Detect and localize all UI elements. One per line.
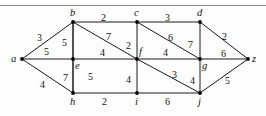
- edge-weight-g-z: 6: [221, 49, 226, 59]
- edge-weight-b-f: 7: [106, 32, 111, 42]
- edge-weight-d-g: 7: [188, 40, 193, 50]
- graph-vertex-f: [135, 57, 139, 61]
- edge-weight-a-e: 5: [44, 47, 49, 57]
- edge-weight-c-d: 3: [165, 13, 170, 23]
- edge-weight-b-h: 5: [88, 72, 93, 82]
- graph-vertex-j: [198, 91, 202, 95]
- vertex-label-d: d: [197, 8, 202, 19]
- vertex-label-e: e: [75, 61, 80, 72]
- edge-weight-j-z: 5: [225, 76, 230, 86]
- vertex-label-b: b: [70, 8, 75, 19]
- vertex-label-f: f: [139, 47, 142, 58]
- vertex-label-a: a: [11, 54, 16, 65]
- graph-figure: abcdefghijz3542575326724744346265: [0, 0, 266, 116]
- edge-weight-f-i: 4: [126, 75, 131, 85]
- vertex-label-h: h: [70, 97, 75, 108]
- vertex-label-i: i: [135, 97, 138, 108]
- vertex-label-c: c: [134, 8, 139, 19]
- edge-weight-d-z: 2: [222, 32, 227, 42]
- edge-weight-a-h: 4: [40, 80, 45, 90]
- vertex-label-j: j: [198, 97, 201, 108]
- edge-weight-a-b: 3: [37, 33, 42, 43]
- graph-canvas: [0, 0, 266, 116]
- edge-weight-b-e: 5: [62, 38, 67, 48]
- graph-vertex-c: [135, 20, 139, 24]
- edge-weight-f-j: 3: [172, 70, 177, 80]
- vertex-label-g: g: [202, 61, 207, 72]
- vertex-label-z: z: [252, 54, 256, 65]
- graph-vertex-a: [20, 57, 24, 61]
- edge-weight-e-f: 4: [100, 48, 105, 58]
- edge-weight-e-h: 7: [63, 73, 68, 83]
- graph-vertex-h: [71, 91, 75, 95]
- graph-vertex-i: [135, 91, 139, 95]
- graph-vertex-b: [71, 20, 75, 24]
- graph-vertex-d: [198, 20, 202, 24]
- edge-weight-f-g: 4: [163, 48, 168, 58]
- edge-weight-h-i: 2: [102, 97, 107, 107]
- edge-weight-c-f: 2: [126, 41, 131, 51]
- edge-weight-b-c: 2: [101, 13, 106, 23]
- edge-weight-i-j: 6: [165, 97, 170, 107]
- edge-weight-c-g: 6: [168, 33, 173, 43]
- edge-weight-g-j: 4: [190, 76, 195, 86]
- graph-vertex-z: [246, 57, 250, 61]
